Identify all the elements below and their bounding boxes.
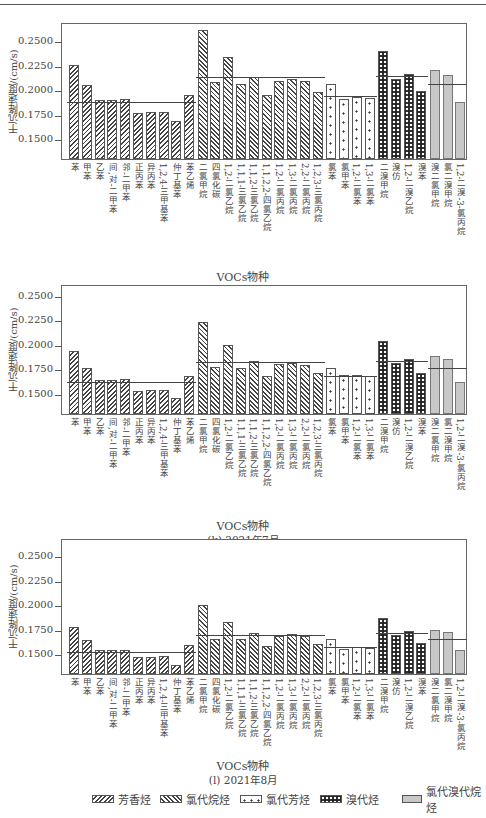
bar-arom	[95, 100, 105, 159]
bar-br	[416, 373, 426, 414]
bar-arom	[171, 398, 181, 414]
x-tick-label: 氯甲苯	[339, 418, 349, 445]
x-tick-label: 氯苯	[326, 418, 336, 436]
x-tick-label: 异丙苯	[145, 418, 155, 445]
x-tick-label: 1,2-二溴乙烷	[403, 678, 413, 730]
bar-arom	[107, 650, 117, 674]
x-tick-label: 1,1,2,2-四氯乙烷	[261, 163, 271, 232]
plot-area	[61, 285, 467, 415]
plot-area	[61, 23, 467, 160]
bar-arom	[133, 113, 143, 159]
legend-item-bromo: 溴代烃	[320, 792, 379, 806]
legend-label: 溴代烃	[346, 791, 379, 807]
legend-item-aromatic: 芳香烃	[92, 792, 151, 806]
bar-clbr	[455, 102, 465, 159]
x-tick-label: 苯	[69, 678, 79, 687]
y-tick-label: 0.1750	[18, 624, 53, 635]
x-tick-label: 异丙苯	[145, 678, 155, 705]
y-tick-mark	[55, 42, 61, 43]
y-tick-mark	[55, 297, 61, 298]
x-tick-label: 1,1,1-三氯乙烷	[236, 418, 246, 479]
x-tick-label: 1,2-二溴-3-氯丙烷	[455, 678, 465, 751]
x-tick-label: 2,2-二氯丙烷	[300, 678, 310, 730]
legend-item-chloroaromatic: 氯代芳烃	[240, 792, 310, 806]
x-tick-label: 邻-二甲苯	[120, 678, 130, 717]
x-tick-label: 二氯甲烷	[197, 163, 207, 199]
bar-arom	[120, 99, 130, 159]
bar-br	[378, 51, 388, 159]
legend-label: 氯代烷烃	[186, 791, 230, 807]
x-tick-label: 甲苯	[81, 163, 91, 181]
bar-clalk	[300, 81, 310, 159]
x-tick-label: 苯	[69, 163, 79, 172]
plot-area	[61, 539, 467, 675]
x-tick-label: 2,2-二氯丙烷	[300, 163, 310, 215]
x-axis-title: VOCs物种	[0, 517, 486, 533]
legend-swatch-bromo	[320, 795, 342, 803]
x-tick-label: 溴二氯甲烷	[429, 418, 439, 463]
x-tick-label: 苯乙烯	[184, 678, 194, 705]
group-mean-line	[428, 639, 468, 640]
x-tick-label: 1,1,2-三氯乙烷	[248, 163, 258, 224]
y-tick-label: 0.1500	[18, 388, 53, 399]
bar-clalk	[249, 77, 259, 159]
bar-clalk	[313, 644, 323, 674]
bar-clalk	[274, 636, 284, 674]
y-tick-label: 0.2500	[18, 290, 53, 301]
bar-clalk	[313, 92, 323, 159]
bar-arom	[95, 650, 105, 674]
x-tick-label: 溴仿	[390, 418, 400, 436]
bar-clar	[339, 375, 349, 414]
bar-clar	[352, 647, 362, 674]
bar-clalk	[274, 364, 284, 414]
bar-clbr	[430, 356, 440, 414]
x-tick-label: 1,2-二氯丙烷	[274, 163, 284, 215]
top-rule	[0, 4, 486, 5]
y-tick-mark	[55, 557, 61, 558]
x-tick-label: 溴苯	[416, 678, 426, 696]
bar-arom	[120, 650, 130, 674]
bar-clar	[339, 649, 349, 674]
x-tick-label: 二溴甲烷	[378, 163, 388, 199]
group-mean-line	[196, 362, 325, 363]
bar-clalk	[249, 633, 259, 674]
x-tick-label: 1,3-二氯丙烷	[287, 418, 297, 470]
bar-clalk	[262, 376, 272, 414]
legend-swatch-chloroalkane	[160, 795, 182, 803]
x-tick-label: 邻-二甲苯	[120, 418, 130, 457]
bar-clalk	[313, 373, 323, 414]
bar-arom	[133, 657, 143, 674]
x-tick-label: 二氯甲烷	[197, 418, 207, 454]
bar-arom	[107, 100, 117, 159]
y-tick-mark	[55, 370, 61, 371]
bar-clbr	[455, 650, 465, 674]
bar-arom	[69, 627, 79, 674]
x-tick-label: 1,2-二溴-3-氯丙烷	[455, 163, 465, 236]
y-tick-label: 0.2000	[18, 339, 53, 350]
legend-item-chloroalkane: 氯代烷烃	[160, 792, 230, 806]
x-tick-label: 乙苯	[94, 163, 104, 181]
bar-clbr	[430, 70, 440, 160]
bar-clalk	[274, 81, 284, 159]
bar-clar	[339, 99, 349, 159]
bar-br	[378, 341, 388, 414]
y-tick-label: 0.2500	[18, 35, 53, 46]
y-tick-label: 0.1500	[18, 133, 53, 144]
x-tick-label: 2,2-二氯丙烷	[300, 418, 310, 470]
legend-swatch-chloroaromatic	[240, 795, 262, 803]
group-mean-line	[324, 647, 376, 648]
y-tick-label: 0.1500	[18, 648, 53, 659]
bar-br	[404, 631, 414, 674]
bar-arom	[184, 645, 194, 674]
y-tick-mark	[55, 655, 61, 656]
legend: 芳香烃 氯代烷烃 氯代芳烃 溴代烃 氯代溴代烷烃	[0, 792, 486, 808]
x-tick-label: 1,3-二氯苯	[364, 418, 374, 461]
bar-clar	[365, 648, 375, 674]
x-tick-label: 1,1,2,2-四氯乙烷	[261, 678, 271, 747]
bar-br	[391, 363, 401, 414]
bar-clar	[365, 98, 375, 159]
bar-clalk	[236, 639, 246, 674]
bar-arom	[184, 95, 194, 159]
x-tick-label: 1,2-二氯乙烷	[223, 678, 233, 730]
bar-clalk	[236, 368, 246, 414]
